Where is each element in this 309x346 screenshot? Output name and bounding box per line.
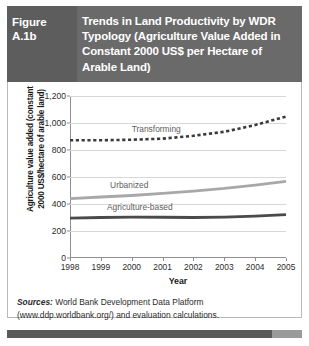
series-line	[70, 181, 286, 198]
y-axis-title-line1: Agriculture value added (constant	[25, 69, 36, 229]
plot-area: 02004006008001,0001,200 1998199920002001…	[70, 96, 286, 258]
bottom-rule-light	[272, 330, 302, 338]
y-tick-label: 1,000	[44, 119, 66, 128]
y-tick-label: 400	[52, 200, 66, 209]
x-tick-mark	[132, 258, 133, 261]
series-label: Urbanized	[110, 181, 148, 189]
source-label: Sources:	[17, 297, 53, 307]
x-tick-mark	[163, 258, 164, 261]
y-tick-label: 0	[61, 254, 66, 263]
y-tick-label: 800	[52, 146, 66, 155]
y-tick-label: 200	[52, 227, 66, 236]
bottom-rule-dark	[7, 330, 272, 338]
series-line	[70, 215, 286, 219]
figure-container: Figure A.1b Trends in Land Productivity …	[0, 0, 309, 346]
bottom-rule	[7, 330, 302, 338]
x-tick-mark	[286, 258, 287, 261]
x-tick-label: 2001	[153, 263, 172, 271]
figure-title: Trends in Land Productivity by WDR Typol…	[77, 6, 302, 75]
x-tick-label: 1999	[92, 263, 111, 271]
x-tick-label: 1998	[61, 263, 80, 271]
x-tick-mark	[255, 258, 256, 261]
x-tick-label: 2000	[122, 263, 141, 271]
x-tick-mark	[193, 258, 194, 261]
x-tick-label: 2003	[215, 263, 234, 271]
x-axis-title: Year	[70, 276, 286, 286]
x-tick-mark	[224, 258, 225, 261]
chart-panel: Agriculture value added (constant 2000 U…	[7, 82, 302, 318]
source-note: Sources: World Bank Development Data Pla…	[7, 296, 302, 322]
x-tick-mark	[101, 258, 102, 261]
x-tick-label: 2004	[246, 263, 265, 271]
series-label: Transforming	[132, 125, 181, 133]
series-label: Agriculture-based	[107, 203, 173, 211]
y-tick-label: 1,200	[44, 92, 66, 101]
x-tick-label: 2005	[277, 263, 296, 271]
series-lines	[70, 96, 286, 258]
figure-header: Figure A.1b Trends in Land Productivity …	[7, 6, 302, 82]
x-tick-mark	[70, 258, 71, 261]
y-tick-label: 600	[52, 173, 66, 182]
x-tick-label: 2002	[184, 263, 203, 271]
